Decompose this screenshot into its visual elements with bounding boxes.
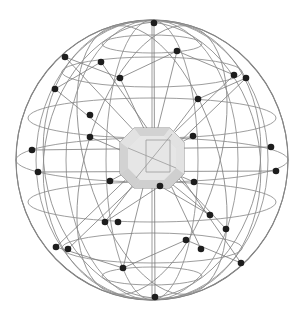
- network-node-0: [151, 20, 158, 27]
- network-node-26: [223, 226, 230, 233]
- network-node-24: [157, 183, 164, 190]
- network-node-27: [238, 260, 245, 267]
- network-node-12: [268, 144, 275, 151]
- gem-bevel-bottom: [134, 180, 170, 188]
- network-node-10: [29, 147, 36, 154]
- network-node-16: [190, 133, 197, 140]
- chord-line-22: [160, 186, 210, 215]
- network-node-2: [62, 54, 69, 61]
- network-node-25: [207, 212, 214, 219]
- network-node-4: [174, 48, 181, 55]
- network-node-9: [195, 96, 202, 103]
- chord-line-14: [120, 51, 177, 78]
- network-node-1: [152, 294, 159, 301]
- network-node-8: [117, 75, 124, 82]
- network-node-6: [243, 75, 250, 82]
- network-node-28: [87, 112, 94, 119]
- network-node-23: [198, 246, 205, 253]
- network-node-3: [98, 59, 105, 66]
- network-node-20: [102, 219, 109, 226]
- illustration-root: Wireframe Network Sphere with Central Ge…: [0, 0, 306, 315]
- gem-bevel-top-left: [134, 128, 170, 136]
- sphere-network-illustration: Wireframe Network Sphere with Central Ge…: [0, 0, 306, 315]
- network-node-18: [53, 244, 60, 251]
- central-gem: [120, 128, 184, 188]
- network-node-19: [65, 246, 72, 253]
- network-node-17: [191, 179, 198, 186]
- network-node-14: [87, 134, 94, 141]
- network-node-22: [183, 237, 190, 244]
- network-node-7: [52, 86, 59, 93]
- network-node-15: [107, 178, 114, 185]
- network-node-11: [35, 169, 42, 176]
- network-node-21: [120, 265, 127, 272]
- network-node-13: [273, 168, 280, 175]
- chord-line-13: [65, 57, 120, 78]
- network-node-29: [115, 219, 122, 226]
- network-node-5: [231, 72, 238, 79]
